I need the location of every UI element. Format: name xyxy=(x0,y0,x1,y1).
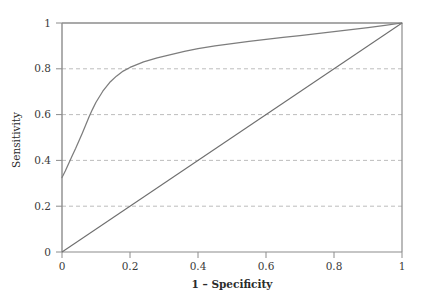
x-tick-labels: 0 0.2 0.4 0.6 0.8 1 xyxy=(59,260,406,272)
y-axis-title: Sensitivity xyxy=(10,112,22,168)
y-tick-labels: 0 0.2 0.4 0.6 0.8 1 xyxy=(34,17,51,258)
x-tick-label-0: 0 xyxy=(59,260,66,272)
x-tick-label-1: 1 xyxy=(399,260,406,272)
x-tick-label-0.8: 0.8 xyxy=(326,260,343,272)
y-tick-label-0.2: 0.2 xyxy=(34,200,51,212)
x-tick-label-0.6: 0.6 xyxy=(258,260,275,272)
x-tick-label-0.2: 0.2 xyxy=(122,260,139,272)
page-caption-cutoff xyxy=(0,290,424,299)
x-axis-title: 1 – Specificity xyxy=(192,278,274,290)
x-tick-label-0.4: 0.4 xyxy=(190,260,207,272)
roc-chart-svg: 0 0.2 0.4 0.6 0.8 1 0 0.2 0.4 0.6 0.8 1 … xyxy=(0,0,424,299)
roc-chart-figure: 0 0.2 0.4 0.6 0.8 1 0 0.2 0.4 0.6 0.8 1 … xyxy=(0,0,424,299)
y-tick-label-1: 1 xyxy=(44,17,51,29)
y-tick-label-0.4: 0.4 xyxy=(34,154,51,166)
y-axis-ticks xyxy=(56,23,62,252)
y-tick-label-0: 0 xyxy=(44,246,51,258)
y-tick-label-0.6: 0.6 xyxy=(34,108,51,120)
x-axis-ticks xyxy=(62,252,402,258)
y-tick-label-0.8: 0.8 xyxy=(34,62,51,74)
